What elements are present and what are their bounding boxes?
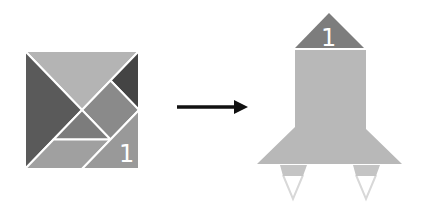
tangram-diagram: 1 1 [0,0,426,212]
thruster-left [280,165,307,176]
arrow-right-icon [177,100,248,114]
rocket-body [257,50,402,164]
thruster-right [353,165,380,176]
flame-right [356,175,376,199]
piece-label-1: 1 [119,140,134,168]
nose-label-1: 1 [321,24,336,52]
flame-left [283,175,303,199]
